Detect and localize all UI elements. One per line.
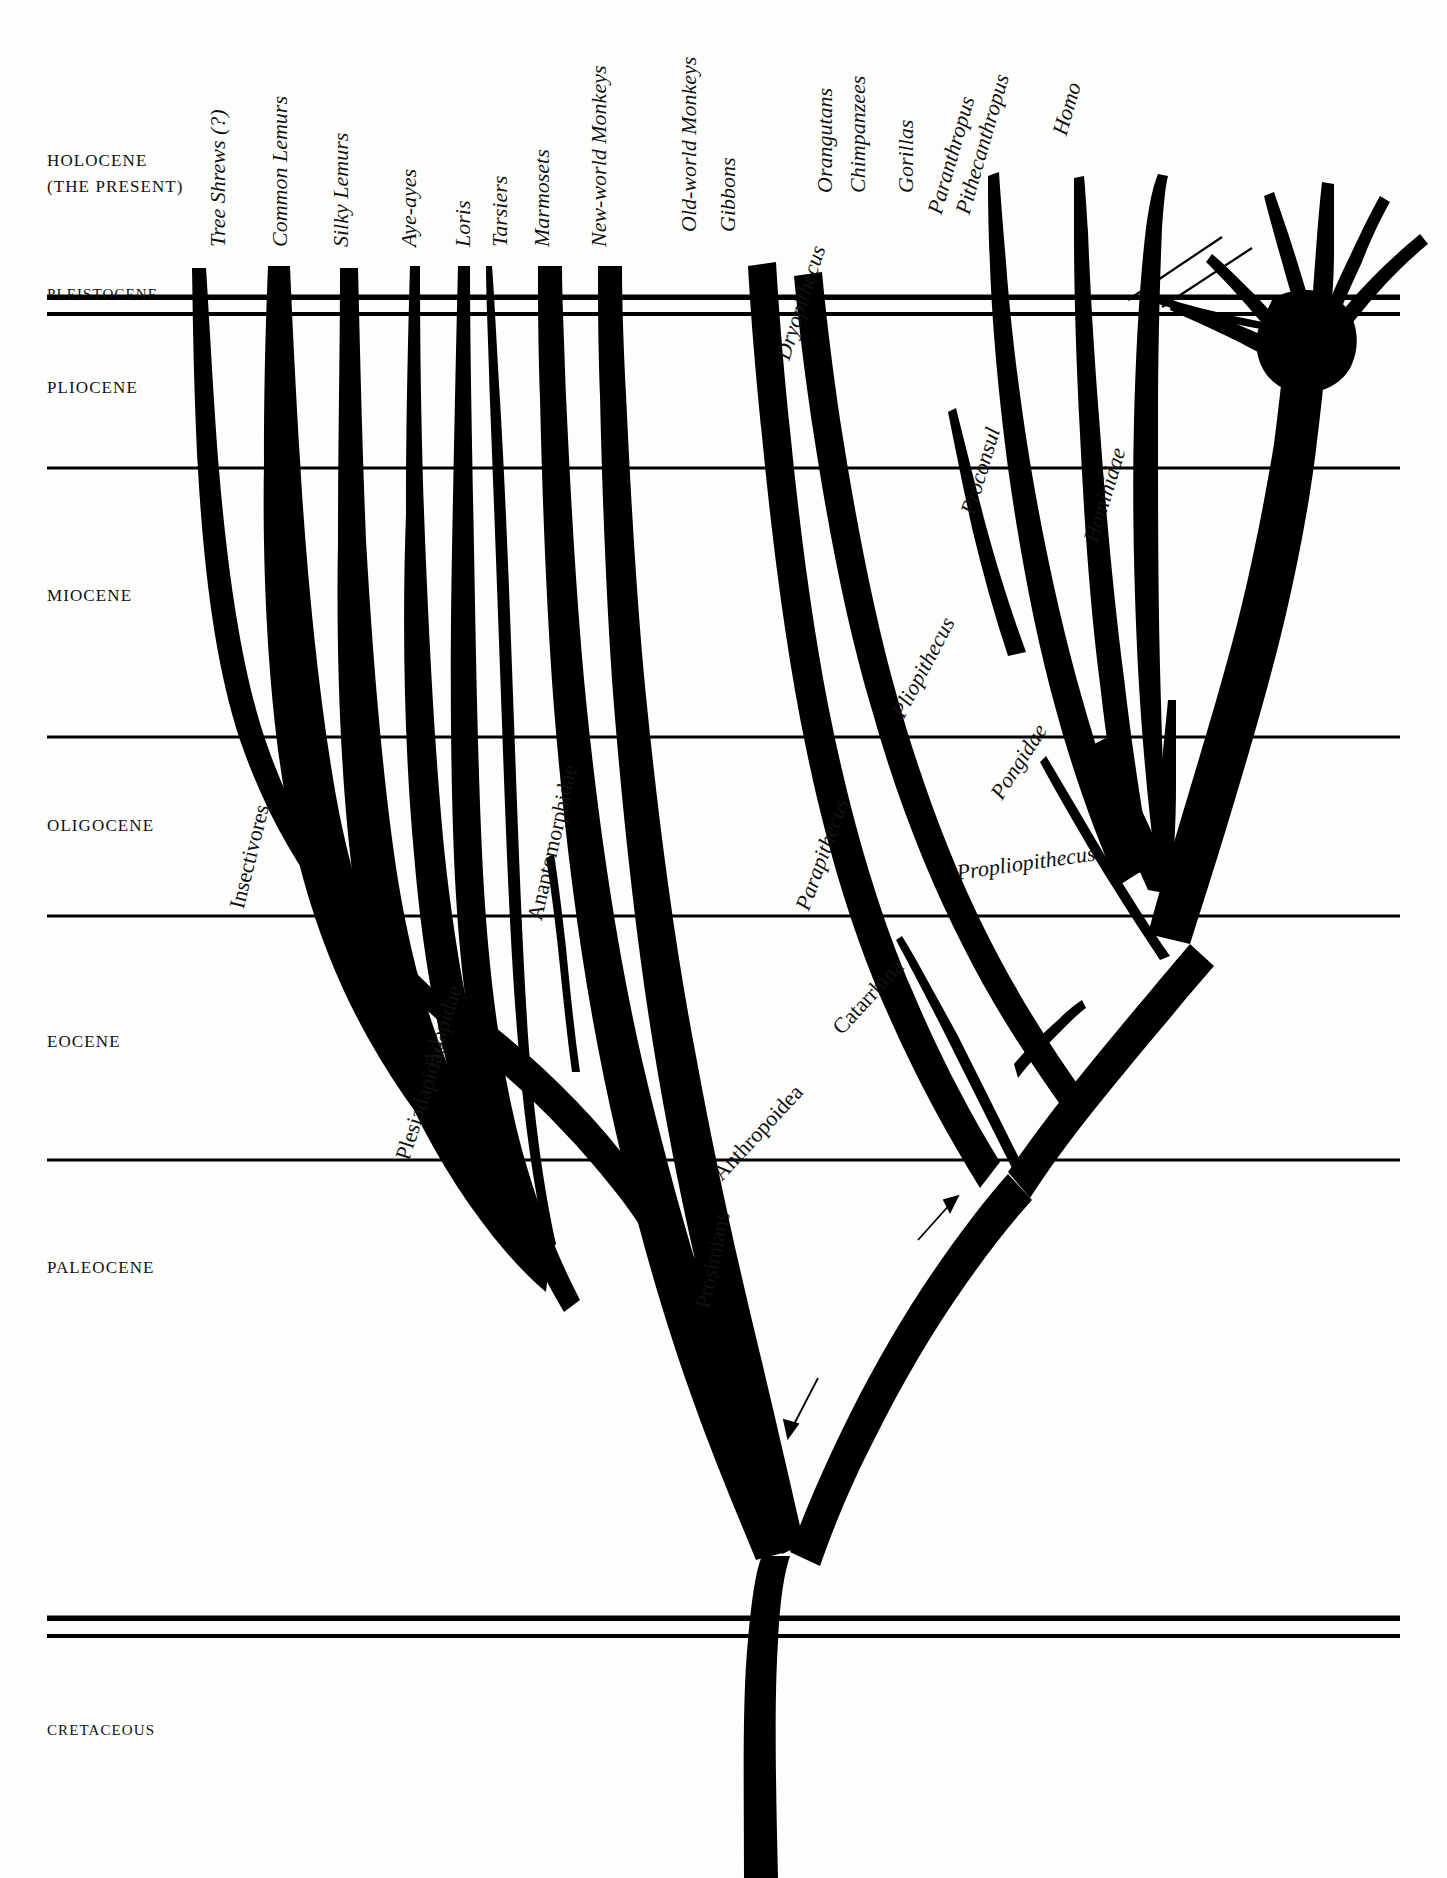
tip-label-orangutans: Orangutans bbox=[812, 88, 838, 193]
primate-phylogeny-figure: HOLOCENE (THE PRESENT) PLEISTOCENE PLIOC… bbox=[0, 0, 1447, 1878]
epoch-label-eocene: EOCENE bbox=[47, 1032, 121, 1052]
tip-label-gorillas: Gorillas bbox=[893, 120, 919, 193]
branch-gibbons bbox=[794, 272, 1086, 1110]
branch-homo-crown-core bbox=[1256, 290, 1356, 393]
epoch-label-pliocene: PLIOCENE bbox=[47, 378, 138, 398]
boundary-pleistocene-top bbox=[47, 295, 1400, 301]
boundary-paleocene-bottom-b bbox=[47, 1634, 1400, 1638]
tip-label-tree-shrews: Tree Shrews (?) bbox=[205, 109, 231, 247]
boundary-pliocene-bottom bbox=[47, 467, 1400, 470]
epoch-label-cretaceous: CRETACEOUS bbox=[47, 1722, 155, 1739]
branch-anthropoid-stem bbox=[790, 1174, 1032, 1566]
epoch-label-pleistocene: PLEISTOCENE bbox=[47, 286, 158, 303]
phylogeny-tree-drawing bbox=[0, 0, 1447, 1878]
arrow-prosimians bbox=[784, 1378, 818, 1438]
branch-main-trunk bbox=[744, 1556, 790, 1878]
tip-label-gibbons: Gibbons bbox=[715, 157, 741, 232]
tip-label-marmosets: Marmosets bbox=[529, 149, 555, 247]
tip-label-old-world-monkeys: Old-world Monkeys bbox=[676, 57, 702, 232]
branch-silky-lemurs bbox=[338, 268, 552, 1292]
epoch-label-miocene: MIOCENE bbox=[47, 586, 132, 606]
branch-hominid-stem bbox=[1148, 334, 1328, 944]
tip-label-new-world-monkeys: New-world Monkeys bbox=[586, 66, 612, 247]
boundary-paleocene-bottom-a bbox=[47, 1616, 1400, 1622]
epoch-label-holocene: HOLOCENE (THE PRESENT) bbox=[47, 148, 184, 199]
tip-label-loris: Loris bbox=[450, 201, 476, 247]
tip-label-aye-ayes: Aye-ayes bbox=[396, 169, 422, 247]
epoch-label-paleocene: PALEOCENE bbox=[47, 1258, 155, 1278]
tip-label-tarsiers: Tarsiers bbox=[487, 176, 513, 247]
epoch-label-oligocene: OLIGOCENE bbox=[47, 816, 154, 836]
tip-label-silky-lemurs: Silky Lemurs bbox=[328, 133, 354, 247]
tree-limbs bbox=[192, 172, 1428, 1878]
arrow-anthropoidea bbox=[918, 1196, 958, 1240]
tip-label-chimpanzees: Chimpanzees bbox=[845, 76, 871, 193]
tip-label-common-lemurs: Common Lemurs bbox=[267, 96, 293, 247]
